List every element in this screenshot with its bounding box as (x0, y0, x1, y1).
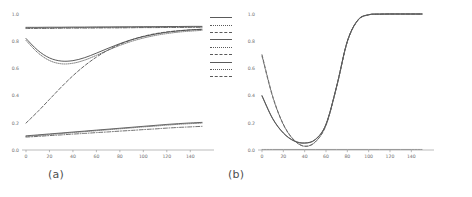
data-series-line (26, 126, 202, 137)
panel-a-caption: (a) (48, 168, 64, 181)
y-tick-label: 0.0 (12, 148, 19, 153)
x-tick-label: 80 (117, 154, 123, 159)
x-tick-label: 20 (280, 154, 286, 159)
panel-a-legend (210, 14, 232, 81)
panel-a: 0204060801001201400.00.20.40.60.81.0 (a) (0, 0, 236, 197)
x-tick-label: 20 (47, 154, 53, 159)
legend-item (210, 29, 232, 36)
y-tick-label: 0.8 (248, 39, 255, 44)
legend-line-sample (210, 54, 232, 55)
legend-item (210, 36, 232, 43)
data-series-line (26, 123, 202, 136)
y-tick-label: 0.6 (12, 66, 19, 71)
x-tick-label: 40 (302, 154, 308, 159)
legend-item (210, 58, 232, 65)
legend-line-sample (210, 39, 232, 40)
y-tick-label: 0.2 (12, 121, 19, 126)
legend-line-sample (210, 32, 232, 33)
data-series-line (262, 14, 422, 146)
legend-line-sample (210, 62, 232, 63)
figure-container: 0204060801001201400.00.20.40.60.81.0 (a)… (0, 0, 472, 197)
panel-a-axes: 0204060801001201400.00.20.40.60.81.0 (12, 12, 214, 160)
legend-item (210, 73, 232, 80)
y-tick-label: 0.0 (248, 148, 255, 153)
x-tick-label: 100 (139, 154, 148, 159)
x-tick-label: 60 (93, 154, 99, 159)
legend-line-sample (210, 47, 232, 48)
y-tick-label: 1.0 (248, 12, 255, 17)
legend-line-sample (210, 76, 232, 77)
legend-item (210, 66, 232, 73)
y-tick-label: 1.0 (12, 12, 19, 17)
legend-line-sample (210, 69, 232, 70)
legend-item (210, 44, 232, 51)
x-tick-label: 0 (261, 154, 264, 159)
panel-a-plot: 0204060801001201400.00.20.40.60.81.0 (0, 0, 236, 197)
x-tick-label: 140 (407, 154, 416, 159)
x-tick-label: 140 (186, 154, 195, 159)
panel-b-curves (262, 14, 422, 149)
data-series-line (26, 29, 202, 123)
x-tick-label: 40 (70, 154, 76, 159)
x-tick-label: 100 (364, 154, 373, 159)
legend-line-sample (210, 25, 232, 26)
y-tick-label: 0.4 (12, 93, 19, 98)
legend-item (210, 14, 232, 21)
y-tick-label: 0.4 (248, 93, 255, 98)
y-tick-label: 0.6 (248, 66, 255, 71)
x-tick-label: 80 (344, 154, 350, 159)
y-tick-label: 0.8 (12, 39, 19, 44)
legend-item (210, 21, 232, 28)
panel-b: 0204060801001201400.00.20.40.60.81.0 per… (236, 0, 472, 197)
y-tick-label: 0.2 (248, 121, 255, 126)
x-tick-label: 120 (162, 154, 171, 159)
data-series-line (262, 14, 422, 143)
x-tick-label: 120 (386, 154, 395, 159)
panel-a-curves (26, 26, 202, 137)
panel-b-plot: 0204060801001201400.00.20.40.60.81.0 (236, 0, 472, 197)
x-tick-label: 0 (25, 154, 28, 159)
legend-item (210, 51, 232, 58)
panel-b-axes: 0204060801001201400.00.20.40.60.81.0 (248, 12, 434, 160)
data-series-line (262, 14, 422, 143)
x-tick-label: 60 (323, 154, 329, 159)
legend-line-sample (210, 17, 232, 18)
data-series-line (26, 29, 202, 61)
panel-b-caption: (b) (228, 168, 244, 181)
data-series-line (262, 14, 422, 146)
